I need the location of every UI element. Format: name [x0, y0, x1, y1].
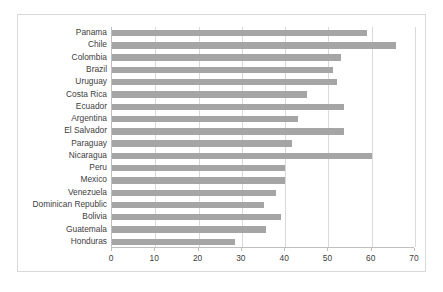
- bar-row: Chile: [112, 39, 414, 51]
- x-tick-label-60: 60: [366, 253, 375, 263]
- bar-bolivia: [112, 214, 281, 220]
- category-label-guatemala: Guatemala: [66, 223, 107, 235]
- category-label-paraguay: Paraguay: [71, 137, 107, 149]
- chart-plot-container: PanamaChileColombiaBrazilUruguayCosta Ri…: [18, 15, 425, 271]
- category-label-costa-rica: Costa Rica: [66, 88, 107, 100]
- bar-costa-rica: [112, 91, 307, 97]
- x-tick-mark-30: [241, 248, 242, 251]
- bar-uruguay: [112, 79, 337, 85]
- gridline-70: [415, 27, 416, 247]
- category-label-chile: Chile: [88, 38, 107, 50]
- bar-row: Honduras: [112, 236, 414, 248]
- x-tick-label-70: 70: [409, 253, 418, 263]
- bar-mexico: [112, 177, 285, 183]
- bar-row: Colombia: [112, 52, 414, 64]
- bar-row: Uruguay: [112, 76, 414, 88]
- bar-row: Mexico: [112, 174, 414, 186]
- bar-honduras: [112, 239, 235, 245]
- category-label-panama: Panama: [76, 26, 107, 38]
- bar-row: Dominican Republic: [112, 199, 414, 211]
- bar-el-salvador: [112, 128, 344, 134]
- category-label-uruguay: Uruguay: [75, 75, 107, 87]
- x-tick-mark-50: [327, 248, 328, 251]
- category-label-venezuela: Venezuela: [68, 186, 107, 198]
- x-tick-label-20: 20: [193, 253, 202, 263]
- x-tick-label-50: 50: [323, 253, 332, 263]
- bar-row: Bolivia: [112, 211, 414, 223]
- x-tick-mark-20: [198, 248, 199, 251]
- category-label-peru: Peru: [89, 161, 107, 173]
- bar-row: El Salvador: [112, 125, 414, 137]
- bar-row: Panama: [112, 27, 414, 39]
- bar-peru: [112, 165, 285, 171]
- category-label-el-salvador: El Salvador: [64, 124, 107, 136]
- category-label-colombia: Colombia: [72, 51, 107, 63]
- x-tick-label-0: 0: [109, 253, 114, 263]
- bar-dominican-republic: [112, 202, 264, 208]
- bar-argentina: [112, 116, 298, 122]
- category-label-mexico: Mexico: [80, 173, 107, 185]
- category-label-honduras: Honduras: [71, 235, 107, 247]
- x-tick-label-40: 40: [279, 253, 288, 263]
- bar-row: Paraguay: [112, 138, 414, 150]
- bar-row: Brazil: [112, 64, 414, 76]
- category-label-bolivia: Bolivia: [82, 210, 107, 222]
- category-label-brazil: Brazil: [86, 63, 107, 75]
- category-label-dominican-republic: Dominican Republic: [33, 198, 107, 210]
- bar-row: Venezuela: [112, 187, 414, 199]
- bar-ecuador: [112, 104, 344, 110]
- bar-row: Costa Rica: [112, 88, 414, 100]
- bar-rows: PanamaChileColombiaBrazilUruguayCosta Ri…: [112, 27, 414, 247]
- x-tick-mark-0: [111, 248, 112, 251]
- bar-brazil: [112, 67, 333, 73]
- x-tick-label-30: 30: [236, 253, 245, 263]
- bar-venezuela: [112, 190, 276, 196]
- bar-chile: [112, 42, 396, 48]
- bar-guatemala: [112, 226, 266, 232]
- category-label-nicaragua: Nicaragua: [69, 149, 107, 161]
- category-label-argentina: Argentina: [71, 112, 107, 124]
- plot-area: PanamaChileColombiaBrazilUruguayCosta Ri…: [111, 27, 414, 248]
- bar-nicaragua: [112, 153, 372, 159]
- x-tick-mark-10: [154, 248, 155, 251]
- bar-row: Argentina: [112, 113, 414, 125]
- x-tick-mark-60: [371, 248, 372, 251]
- chart-frame: PanamaChileColombiaBrazilUruguayCosta Ri…: [17, 14, 426, 272]
- x-tick-mark-70: [414, 248, 415, 251]
- bar-colombia: [112, 54, 341, 60]
- bar-row: Guatemala: [112, 223, 414, 235]
- bar-row: Nicaragua: [112, 150, 414, 162]
- category-label-ecuador: Ecuador: [76, 100, 107, 112]
- x-tick-label-10: 10: [150, 253, 159, 263]
- bar-row: Peru: [112, 162, 414, 174]
- bar-paraguay: [112, 140, 292, 146]
- bar-panama: [112, 30, 367, 36]
- bar-row: Ecuador: [112, 101, 414, 113]
- x-tick-mark-40: [284, 248, 285, 251]
- x-axis: 010203040506070: [111, 248, 414, 268]
